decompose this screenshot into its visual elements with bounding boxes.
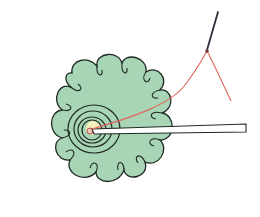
flower-fabric: [52, 54, 173, 181]
illustration: Hand-drawn diagram of a scalloped green …: [0, 0, 260, 217]
needle: [205, 12, 218, 53]
